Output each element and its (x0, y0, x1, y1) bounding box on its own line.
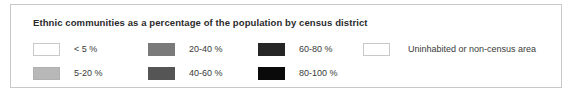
legend-item-label: 20-40 % (189, 45, 223, 54)
swatch-uninhabited (363, 43, 390, 56)
legend-item-label: 5-20 % (74, 69, 103, 78)
legend-item-label: 80-100 % (299, 69, 338, 78)
legend-item-label: Uninhabited or non-census area (408, 45, 536, 54)
swatch-60-80-percent (258, 43, 285, 56)
legend-item-label: < 5 % (74, 45, 97, 54)
legend-item-20-40-percent: 20-40 % (148, 39, 223, 59)
legend-title: Ethnic communities as a percentage of th… (33, 17, 368, 28)
swatch-lt-5-percent (33, 43, 60, 56)
legend-item-uninhabited: Uninhabited or non-census area (363, 39, 536, 59)
legend-item-lt-5-percent: < 5 % (33, 39, 97, 59)
swatch-40-60-percent (148, 67, 175, 80)
legend-item-label: 60-80 % (299, 45, 333, 54)
legend-item-80-100-percent: 80-100 % (258, 63, 338, 83)
swatch-5-20-percent (33, 67, 60, 80)
legend-item-label: 40-60 % (189, 69, 223, 78)
legend-item-40-60-percent: 40-60 % (148, 63, 223, 83)
legend-item-5-20-percent: 5-20 % (33, 63, 103, 83)
map-legend-panel: Ethnic communities as a percentage of th… (10, 4, 562, 88)
swatch-20-40-percent (148, 43, 175, 56)
swatch-80-100-percent (258, 67, 285, 80)
legend-item-60-80-percent: 60-80 % (258, 39, 333, 59)
